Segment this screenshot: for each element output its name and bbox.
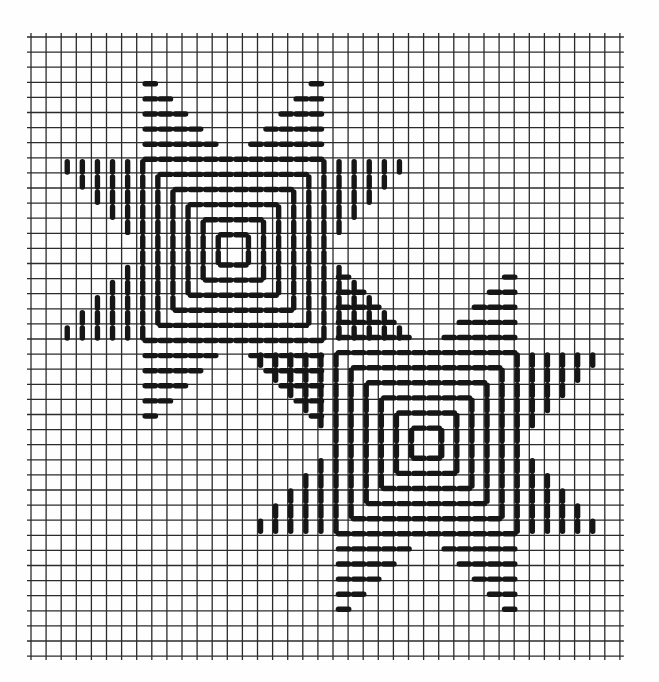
stitch-chart-page: Eight-Pointed Star Needlepoint Chart eig… [0, 0, 659, 682]
grid-layer [27, 33, 624, 660]
chart-artwork [0, 0, 659, 682]
